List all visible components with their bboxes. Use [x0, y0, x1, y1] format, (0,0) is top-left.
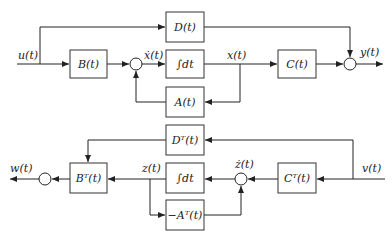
label-v: v(t) [362, 162, 381, 175]
wire-D-to-out [204, 27, 350, 57]
block-D-label: D(t) [173, 21, 196, 34]
block-negAT-label: −Aᵀ(t) [168, 209, 203, 222]
summing-junction-state [130, 58, 142, 70]
block-CT-label: Cᵀ(t) [284, 172, 310, 185]
wire-DT-to-BT [88, 140, 166, 162]
wire-x-to-A [205, 64, 240, 102]
wire-z-to-negAT [150, 179, 165, 215]
block-A-label: A(t) [174, 96, 196, 109]
summing-junction-adjoint-state [235, 173, 247, 185]
label-zdot: ż(t) [234, 158, 254, 171]
summing-junction-adjoint-output [39, 173, 51, 185]
block-integrator-adjoint-label: ∫dt [176, 172, 194, 185]
wire-negAT-to-sum [204, 186, 241, 215]
block-BT-label: Bᵀ(t) [75, 172, 102, 185]
primal-system: D(t) B(t) ∫dt A(t) C(t) u(t) ẋ(t) x(t) y… [17, 12, 383, 117]
block-DT-label: Dᵀ(t) [171, 134, 198, 147]
label-w: w(t) [10, 162, 32, 175]
block-integrator-label: ∫dt [176, 58, 194, 71]
label-xdot: ẋ(t) [144, 49, 163, 62]
adjoint-system: Dᵀ(t) Bᵀ(t) ∫dt −Aᵀ(t) Cᵀ(t) w(t) z(t) ż… [10, 125, 385, 230]
label-z: z(t) [141, 162, 161, 175]
wire-A-to-sum [136, 71, 166, 102]
label-x: x(t) [227, 49, 246, 62]
summing-junction-output [344, 58, 356, 70]
block-diagram: D(t) B(t) ∫dt A(t) C(t) u(t) ẋ(t) x(t) y… [0, 0, 392, 235]
label-u: u(t) [18, 49, 38, 62]
block-C-label: C(t) [286, 58, 307, 71]
label-y: y(t) [359, 46, 379, 59]
block-B-label: B(t) [77, 58, 99, 71]
